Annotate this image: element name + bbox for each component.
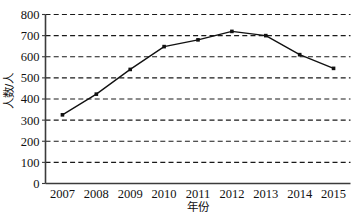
data-point-marker: [298, 53, 302, 57]
x-axis-tick-label: 2010: [152, 187, 177, 201]
y-axis-tick-label: 100: [21, 156, 40, 170]
y-axis-tick-label: 500: [21, 71, 40, 85]
y-axis-tick-label: 200: [21, 135, 40, 149]
y-axis-tick-label: 600: [21, 50, 40, 64]
line-chart: 0100200300400500600700800200720082009201…: [0, 0, 354, 222]
data-point-marker: [162, 45, 166, 49]
data-point-marker: [61, 113, 65, 117]
data-point-marker: [95, 92, 99, 96]
data-point-marker: [332, 67, 336, 71]
x-axis-tick-label: 2012: [219, 187, 244, 201]
data-point-marker: [196, 38, 200, 42]
data-point-marker: [264, 34, 268, 38]
data-point-marker: [128, 68, 132, 72]
y-axis-tick-label: 800: [21, 8, 40, 22]
y-axis-tick-label: 400: [21, 92, 40, 106]
y-axis-tick-label: 700: [21, 29, 40, 43]
y-axis-title: 人数/人: [2, 72, 15, 109]
x-axis-tick-label: 2007: [50, 187, 75, 201]
x-axis-tick-label: 2013: [253, 187, 278, 201]
y-axis-tick-label: 0: [33, 177, 39, 191]
x-axis-tick-label: 2009: [118, 187, 143, 201]
x-axis-tick-label: 2014: [287, 187, 313, 201]
x-axis-tick-label: 2015: [321, 187, 346, 201]
data-point-marker: [230, 30, 234, 34]
x-axis-tick-label: 2008: [84, 187, 109, 201]
y-axis-tick-label: 300: [21, 114, 40, 128]
chart-canvas: 0100200300400500600700800200720082009201…: [0, 0, 354, 222]
x-axis-tick-label: 2011: [186, 187, 211, 201]
x-axis-title: 年份: [187, 200, 210, 213]
